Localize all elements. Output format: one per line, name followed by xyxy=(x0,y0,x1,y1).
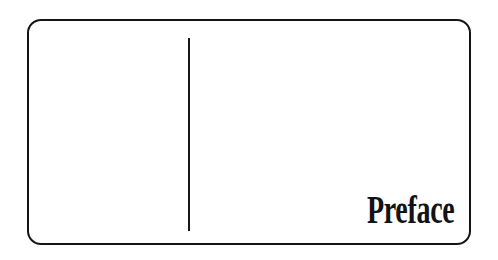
vertical-rule-icon xyxy=(188,38,190,231)
rounded-rectangle-border: Preface xyxy=(27,19,471,245)
divider-page: Preface xyxy=(0,0,498,260)
page-title: Preface xyxy=(367,190,454,229)
